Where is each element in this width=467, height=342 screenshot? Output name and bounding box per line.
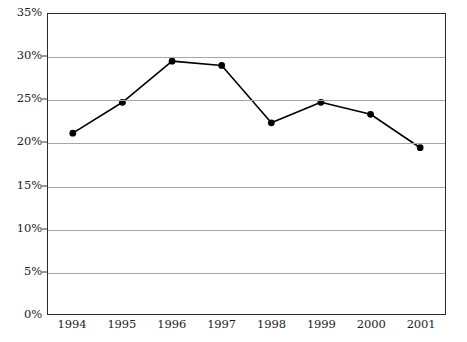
data-point-marker: 2000: 23.3% (367, 111, 374, 118)
y-tick-label: 15% (0, 180, 42, 192)
data-series-line: 1994: 21.1%1995: 24.7%1996: 29.5%1997: 2… (48, 14, 445, 314)
data-point-marker: 1996: 29.5% (169, 58, 176, 65)
y-tick-label: 30% (0, 50, 42, 62)
x-tick-label: 1996 (157, 319, 186, 331)
y-tick-label: 10% (0, 223, 42, 235)
chart-title (0, 0, 467, 2)
gridline (48, 143, 445, 144)
x-tick-label: 1998 (257, 319, 286, 331)
gridline (48, 187, 445, 188)
data-point-marker: 1998: 22.3% (268, 119, 275, 126)
data-point-marker: 1997: 29% (218, 62, 225, 69)
gridline (48, 230, 445, 231)
gridline (48, 273, 445, 274)
x-tick-label: 2001 (407, 319, 436, 331)
data-point-marker: 2001: 19.4% (417, 144, 424, 151)
y-axis: 0%5%10%15%20%25%30%35% (0, 13, 42, 315)
x-axis: 19941995199619971998199920002001 (47, 319, 446, 339)
y-tick-label: 25% (0, 94, 42, 106)
y-tick-label: 0% (0, 309, 42, 321)
x-tick-label: 1994 (58, 319, 87, 331)
x-tick-label: 1997 (207, 319, 236, 331)
line-chart: 0%5%10%15%20%25%30%35% 1994: 21.1%1995: … (0, 0, 467, 342)
plot-area: 1994: 21.1%1995: 24.7%1996: 29.5%1997: 2… (47, 13, 446, 315)
y-tick-label: 5% (0, 266, 42, 278)
x-tick-label: 2000 (357, 319, 386, 331)
gridline (48, 100, 445, 101)
data-point-marker: 1994: 21.1% (69, 130, 76, 137)
x-tick-label: 1995 (107, 319, 136, 331)
x-tick-label: 1999 (307, 319, 336, 331)
y-tick-label: 20% (0, 137, 42, 149)
gridline (48, 57, 445, 58)
y-tick-label: 35% (0, 7, 42, 19)
